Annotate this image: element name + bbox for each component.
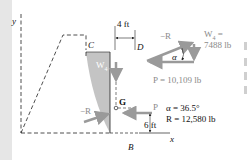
- y-axis-label: y: [12, 17, 16, 26]
- triangle-neg-R: [147, 43, 192, 61]
- edge-text-fragment: [244, 58, 247, 66]
- result-R: R = 12,580 lb: [166, 115, 216, 124]
- dim-height-P: 6 ft: [144, 121, 156, 130]
- weight-label: W4: [96, 61, 108, 72]
- point-B: B: [128, 143, 134, 152]
- result-alpha: α = 36.5°: [166, 104, 200, 113]
- dim-top-width: 4 ft: [117, 20, 129, 29]
- triangle-neg-R-label: −R: [160, 32, 171, 41]
- point-C: C: [88, 41, 94, 50]
- W4-value: 7488 lb: [204, 41, 231, 50]
- x-axis-label: x: [170, 135, 174, 144]
- edge-text-fragment: [244, 72, 247, 80]
- centroid-G: [114, 106, 118, 110]
- triangle-alpha-label: α: [172, 53, 177, 62]
- dam-outline-dashed: [21, 35, 86, 133]
- P-label: P: [153, 103, 158, 112]
- neg-R-body-label: −R: [80, 107, 91, 116]
- edge-text-fragment: [244, 42, 247, 50]
- point-D: D: [137, 43, 144, 52]
- P-value: P = 10,109 lb: [153, 76, 201, 85]
- point-G: G: [119, 98, 126, 107]
- edge-text-fragment: [244, 86, 247, 94]
